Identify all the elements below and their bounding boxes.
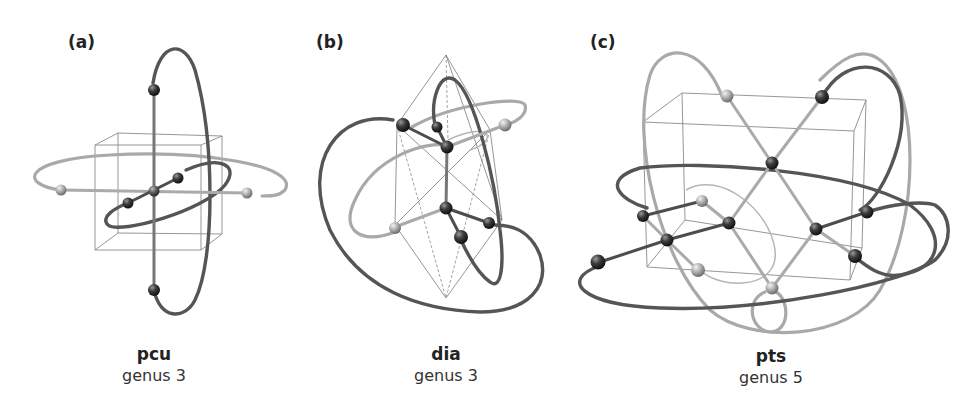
pts-node (721, 90, 734, 103)
panel-c: (c) (580, 32, 948, 387)
dia-net-name: dia (431, 344, 460, 364)
panel-b-label: (b) (316, 32, 344, 52)
pts-loop-dark-right (822, 67, 902, 210)
pts-loop-dark-top (617, 165, 935, 275)
pts-node (696, 195, 708, 207)
pts-genus: genus 5 (739, 368, 803, 387)
dia-node (454, 230, 468, 244)
pcu-node (56, 185, 67, 196)
pts-node (661, 234, 674, 247)
pcu-node (148, 84, 160, 96)
pts-net-name: pts (756, 346, 786, 366)
pcu-node (123, 198, 134, 209)
pcu-genus: genus 3 (122, 366, 186, 385)
pcu-net-name: pcu (137, 344, 171, 364)
pts-node (591, 255, 606, 270)
pts-node (810, 223, 823, 236)
pcu-node (242, 188, 253, 199)
pts-node (766, 157, 779, 170)
dia-node (483, 217, 495, 229)
panel-a-label: (a) (68, 32, 95, 52)
pts-node (766, 282, 779, 295)
dia-loop-dark-upper (434, 78, 502, 284)
dia-loop-light-2 (350, 145, 447, 237)
pts-node (861, 206, 874, 219)
panel-c-label: (c) (590, 32, 616, 52)
dia-node (389, 222, 401, 234)
figure-canvas: (a) pcu genus 3 (b) (0, 0, 970, 412)
dia-node (441, 141, 454, 154)
panel-b: (b) (316, 32, 543, 385)
pts-node (848, 249, 862, 263)
pcu-node (173, 173, 184, 184)
panel-a: (a) pcu genus 3 (35, 32, 287, 385)
pts-node (723, 217, 736, 230)
dia-node (440, 202, 453, 215)
dia-genus: genus 3 (414, 366, 478, 385)
dia-node (396, 118, 410, 132)
pcu-node-center (149, 186, 160, 197)
dia-unit-cell (395, 55, 502, 298)
pts-node (815, 90, 829, 104)
pts-node (691, 263, 705, 277)
dia-loop-dark-outer (320, 119, 543, 312)
pcu-loop-y (106, 163, 230, 227)
pcu-node (148, 284, 160, 296)
pts-node (637, 210, 649, 222)
dia-node (432, 122, 443, 133)
pts-loop-light-small (752, 292, 786, 332)
dia-node (499, 119, 512, 132)
